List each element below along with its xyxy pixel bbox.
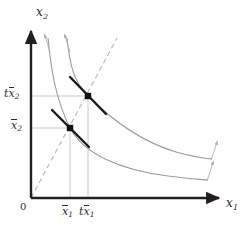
x-tick-label-xbar-1: x1 xyxy=(62,206,73,219)
y-tick-base-x-lower: x xyxy=(11,120,17,131)
x-tick-label-t-xbar-1: tx1 xyxy=(79,206,95,219)
x-tick-subscript-1: 1 xyxy=(68,210,73,219)
growth-arrow-right-lower-icon xyxy=(207,161,214,181)
y-tick-label-xbar-2: x2 xyxy=(11,120,22,133)
x-axis-label-subscript: 1 xyxy=(233,202,238,212)
upper-tangency-point xyxy=(85,93,91,99)
x-tick-base-x: x xyxy=(62,206,68,217)
y-axis-label-base: x xyxy=(36,5,43,19)
y-tick-subscript-2: 2 xyxy=(15,92,20,101)
growth-arrow-top-left-icon xyxy=(45,34,51,52)
y-tick-subscript-2-lower: 2 xyxy=(17,124,22,133)
x-tick-base-x-upper: x xyxy=(83,206,89,217)
lower-tangency-point xyxy=(67,125,73,131)
growth-arrow-right-upper-icon xyxy=(211,141,218,160)
y-tick-label-t-xbar-2: tx2 xyxy=(4,88,20,101)
expansion-path-ray xyxy=(31,38,117,198)
x-axis-label-base: x xyxy=(226,196,233,210)
y-tick-base-x: x xyxy=(8,88,14,99)
isoquant-diagram: x2 x1 0 tx2 x2 x1 tx1 xyxy=(0,0,245,233)
x-tick-subscript-1-upper: 1 xyxy=(90,210,95,219)
diagram-canvas xyxy=(0,0,245,233)
inner-isoquant xyxy=(48,38,208,180)
y-axis-label-subscript: 2 xyxy=(43,11,48,21)
y-axis-label: x2 xyxy=(36,6,48,20)
origin-label: 0 xyxy=(20,202,26,212)
growth-arrow-top-right-icon xyxy=(65,34,71,52)
x-axis-label: x1 xyxy=(226,197,238,211)
